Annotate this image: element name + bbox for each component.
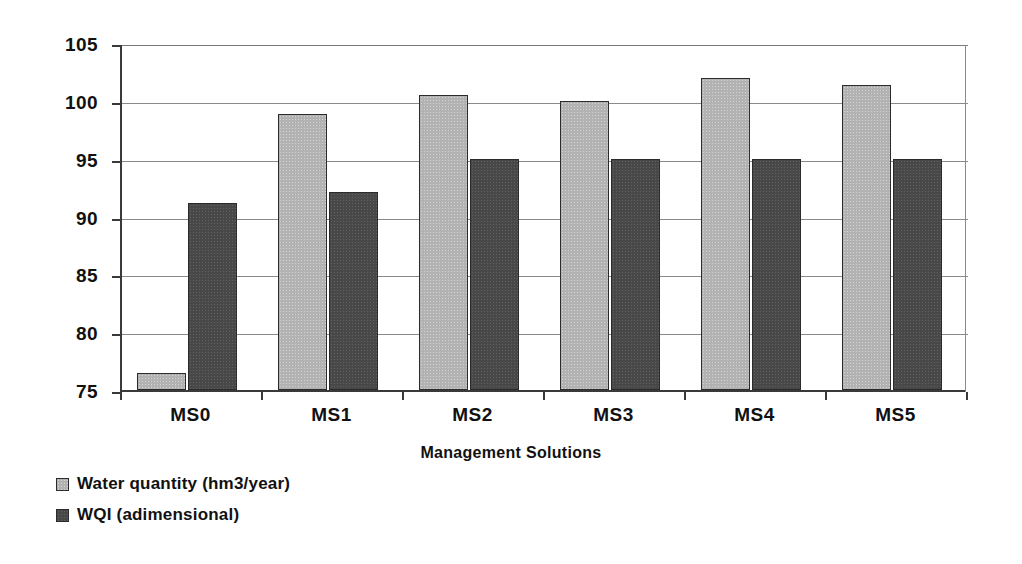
- bar-ms5-series-1: [842, 85, 891, 390]
- x-tick-mark-0: [120, 392, 122, 400]
- chart-legend: Water quantity (hm3/year) WQI (adimensio…: [56, 474, 290, 536]
- bar-ms4-series-2: [752, 159, 801, 390]
- x-category-label-ms4: MS4: [684, 404, 825, 426]
- legend-swatch-icon-water-quantity: [56, 478, 69, 491]
- bar-ms3-series-2: [611, 159, 660, 390]
- y-tick-label-90: 90: [36, 208, 98, 230]
- x-tick-mark-3: [543, 392, 545, 400]
- legend-item-wqi: WQI (adimensional): [56, 505, 290, 525]
- gridline-105: [122, 45, 968, 46]
- x-tick-mark-end: [966, 392, 968, 400]
- plot-area: [120, 45, 966, 392]
- bar-ms5-series-2: [893, 159, 942, 390]
- x-category-label-ms3: MS3: [543, 404, 684, 426]
- y-tick-label-75: 75: [36, 381, 98, 403]
- legend-swatch-icon-wqi: [56, 509, 69, 522]
- x-category-label-ms5: MS5: [825, 404, 966, 426]
- legend-label-water-quantity: Water quantity (hm3/year): [77, 474, 290, 494]
- x-category-label-ms2: MS2: [402, 404, 543, 426]
- x-tick-mark-1: [261, 392, 263, 400]
- bar-ms4-series-1: [701, 78, 750, 390]
- y-tick-label-95: 95: [36, 150, 98, 172]
- legend-label-wqi: WQI (adimensional): [77, 505, 239, 525]
- legend-item-water-quantity: Water quantity (hm3/year): [56, 474, 290, 494]
- bar-ms1-series-1: [278, 114, 327, 390]
- x-category-label-ms0: MS0: [120, 404, 261, 426]
- bar-ms1-series-2: [329, 192, 378, 390]
- bar-ms3-series-1: [560, 101, 609, 390]
- bar-ms0-series-1: [137, 373, 186, 390]
- bar-ms0-series-2: [188, 203, 237, 390]
- x-tick-mark-2: [402, 392, 404, 400]
- y-tick-label-85: 85: [36, 265, 98, 287]
- x-axis-title: Management Solutions: [0, 444, 1022, 462]
- y-tick-label-80: 80: [36, 323, 98, 345]
- x-category-label-ms1: MS1: [261, 404, 402, 426]
- plot-right-border: [965, 45, 966, 392]
- x-tick-mark-4: [684, 392, 686, 400]
- bar-ms2-series-2: [470, 159, 519, 390]
- y-tick-label-105: 105: [36, 34, 98, 56]
- y-tick-label-100: 100: [36, 92, 98, 114]
- bar-chart-figure: 7580859095100105 MS0MS1MS2MS3MS4MS5 Mana…: [0, 0, 1022, 564]
- bar-ms2-series-1: [419, 95, 468, 390]
- x-tick-mark-5: [825, 392, 827, 400]
